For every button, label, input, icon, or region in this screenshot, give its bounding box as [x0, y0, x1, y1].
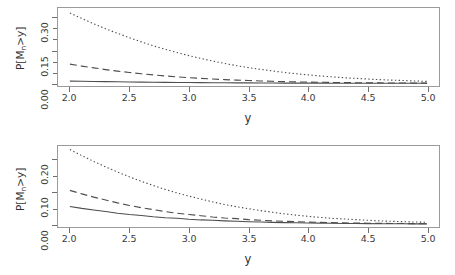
x-tick-label: 2.0: [62, 233, 77, 244]
x-tick-label: 3.0: [182, 92, 197, 103]
x-tick-label: 4.0: [301, 233, 316, 244]
curve-dashed: [70, 64, 427, 83]
y-tick-label: 0.00: [39, 90, 50, 110]
curve-solid: [70, 206, 427, 223]
x-tick-label: 2.5: [122, 92, 137, 103]
plot-lines-top: [58, 8, 439, 86]
x-tick-label: 4.5: [361, 92, 376, 103]
y-tick-label: 0.15: [39, 57, 50, 77]
x-tick-label: 3.0: [182, 233, 197, 244]
plot-area-top: [57, 7, 440, 87]
figure-root: { "figure": { "background": "#ffffff", "…: [0, 0, 455, 275]
chart-panel-bottom: P[Mn>y] 0.000.100.20 2.02.53.03.54.04.55…: [0, 135, 455, 275]
curve-solid: [70, 81, 427, 83]
x-tick-label: 4.5: [361, 233, 376, 244]
plot-lines-bottom: [58, 146, 439, 227]
chart-panel-top: P[Mn>y] 0.000.150.30 2.02.53.03.54.04.55…: [0, 0, 455, 135]
plot-area-bottom: [57, 145, 440, 228]
y-tick-label: 0.20: [39, 165, 50, 185]
x-tick-label: 3.5: [242, 233, 257, 244]
x-tick-label: 4.0: [301, 92, 316, 103]
y-tick-label: 0.00: [39, 231, 50, 251]
curve-dashed: [70, 190, 427, 223]
y-tick-label: 0.30: [39, 23, 50, 43]
x-axis-title-bottom: y: [245, 252, 252, 266]
y-tick-label: 0.10: [39, 198, 50, 218]
y-axis-title-bottom: P[Mn>y]: [14, 168, 26, 211]
curve-dotted: [70, 150, 427, 223]
x-tick-label: 2.0: [62, 92, 77, 103]
y-axis-title-top: P[Mn>y]: [14, 27, 26, 70]
x-axis-title-top: y: [245, 111, 252, 125]
x-tick-label: 5.0: [421, 92, 436, 103]
x-tick-label: 2.5: [122, 233, 137, 244]
x-tick-label: 5.0: [421, 233, 436, 244]
x-tick-label: 3.5: [242, 92, 257, 103]
curve-dotted: [70, 13, 427, 81]
